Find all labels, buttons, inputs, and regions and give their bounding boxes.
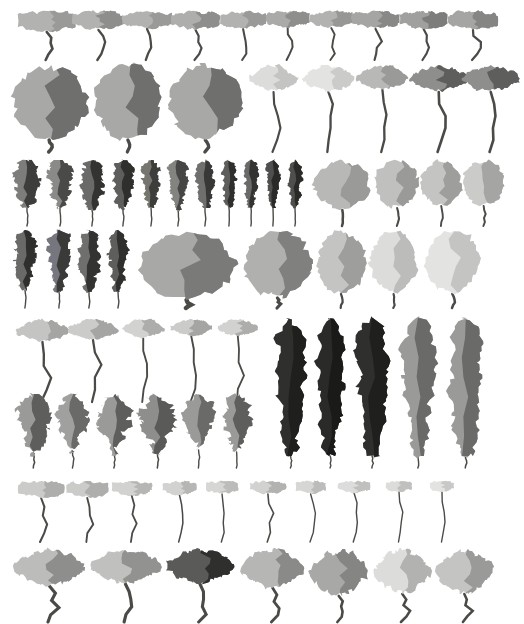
- tree-trunk: [205, 140, 209, 152]
- tree-columnar: [112, 158, 134, 224]
- tree-glyph-r7t3: [103, 478, 161, 544]
- tree-glyph-r6t1: [9, 392, 58, 470]
- tree-columnar: [266, 158, 280, 224]
- row-4-columnar-and-large-blobs: [0, 228, 497, 312]
- tree-shrub-round: [314, 158, 370, 224]
- tree-umbrella-wide: [122, 316, 164, 400]
- tree-umbrella-flat: [112, 478, 152, 540]
- tree-glyph-r6t5: [177, 392, 220, 470]
- tree-leaf: [58, 392, 88, 466]
- tree-trunk: [472, 30, 481, 60]
- tree-glyph-r7t10: [424, 478, 460, 544]
- tree-trunk: [442, 492, 446, 542]
- tree-blob-tall: [168, 62, 242, 150]
- tree-trunk: [59, 292, 60, 308]
- tree-trunk: [186, 300, 191, 308]
- tree-glyph-r1t10: [437, 8, 509, 64]
- tree-trunk: [73, 452, 74, 468]
- tree-blob-wide: [242, 228, 312, 306]
- tree-canopy-broad: [242, 546, 304, 620]
- tree-trunk: [310, 494, 315, 542]
- tree-leaf: [140, 392, 174, 466]
- tree-trunk: [441, 206, 443, 226]
- tree-trunk: [452, 294, 455, 308]
- tree-shrub-upright: [424, 228, 480, 306]
- tree-umbrella-flat: [250, 478, 286, 540]
- tree-glyph-r3t4: [106, 158, 140, 228]
- tree-trunk: [237, 452, 238, 468]
- tree-trunk: [92, 210, 93, 226]
- tree-trunk: [199, 584, 206, 622]
- tree-leaf: [16, 392, 50, 466]
- tree-umbrella-flat: [386, 478, 412, 540]
- tree-trunk: [272, 588, 280, 622]
- tree-glyph-r3t15: [452, 158, 515, 228]
- tree-trunk: [221, 494, 224, 542]
- tree-trunk: [199, 450, 200, 468]
- tree-columnar: [78, 228, 100, 306]
- tree-trunk: [327, 92, 332, 152]
- tree-shadow-side: [464, 548, 524, 594]
- tree-trunk: [48, 586, 59, 622]
- tree-leaf: [98, 392, 130, 466]
- tree-glyph-r7t9: [380, 478, 418, 544]
- tree-trunk: [89, 292, 90, 308]
- tree-shadow-side: [473, 10, 524, 30]
- tree-umbrella-wide: [68, 316, 118, 400]
- tree-trunk: [49, 140, 52, 152]
- tree-umbrella-wide: [170, 316, 212, 400]
- tree-trunk: [401, 594, 410, 622]
- tree-trunk: [40, 498, 47, 542]
- tree-umbrella-flat: [430, 478, 454, 540]
- tree-shrub-round: [462, 158, 506, 224]
- tree-umbrella-flat: [338, 478, 370, 540]
- tree-trunk: [157, 454, 158, 468]
- row-8-broad-canopy: [0, 546, 497, 624]
- tree-columnar: [48, 228, 70, 306]
- tree-glyph-r4t1: [8, 228, 42, 310]
- tree-canopy-broad: [310, 546, 368, 620]
- tree-glyph-r7t5: [199, 478, 245, 544]
- tree-glyph-r7t6: [242, 478, 294, 544]
- tree-trunk: [97, 30, 105, 60]
- tree-canopy-broad: [374, 546, 430, 620]
- tree-canopy-broad: [436, 546, 492, 620]
- row-7-pale-umbrella-series: [0, 478, 497, 544]
- tree-umbrella-flat: [66, 478, 108, 540]
- tree-glyph-r3t2: [42, 158, 78, 228]
- tree-trunk: [205, 208, 206, 226]
- tree-trunk: [484, 206, 486, 226]
- tree-columnar: [168, 158, 188, 224]
- tree-glyph-r7t4: [155, 478, 204, 544]
- tree-glyph-r6t4: [133, 392, 182, 470]
- tree-trunk: [342, 210, 343, 226]
- tree-trunk: [267, 494, 273, 542]
- tree-canopy-broad: [166, 546, 234, 620]
- tree-trunk: [124, 584, 132, 622]
- tree-canopy-broad: [14, 546, 84, 620]
- tree-shadow-side: [482, 160, 524, 206]
- row-1-low-umbrella-small: [0, 8, 497, 66]
- tree-glyph-r3t3: [74, 158, 110, 228]
- tree-trunk: [114, 454, 115, 468]
- row-3-columnar-narrow-and-shrubs: [0, 158, 497, 230]
- tree-trunk: [330, 28, 334, 60]
- tree-trunk: [438, 92, 446, 152]
- tree-columnar: [244, 158, 258, 224]
- tree-trunk: [399, 492, 403, 542]
- tree-trunk: [287, 28, 293, 60]
- tree-columnar: [14, 158, 40, 224]
- tree-trunk: [273, 92, 281, 152]
- tree-trunk: [338, 596, 343, 622]
- tree-columnar: [196, 158, 214, 224]
- tree-umbrella-round: [462, 62, 520, 150]
- tree-shadow-side: [448, 230, 513, 294]
- tree-columnar: [48, 158, 72, 224]
- tree-trunk: [195, 30, 202, 60]
- tree-leaf: [222, 392, 252, 466]
- row-2-large-blob-and-umbrella: [0, 62, 497, 154]
- tree-columnar: [14, 228, 36, 306]
- tree-trunk: [375, 29, 382, 60]
- tree-umbrella-flat: [448, 8, 498, 60]
